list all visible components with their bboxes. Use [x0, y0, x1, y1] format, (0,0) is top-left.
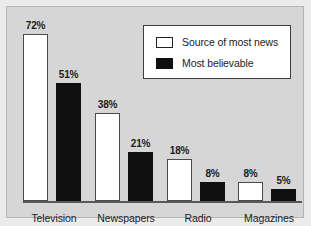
bar-value-label: 51% [59, 69, 78, 80]
legend-label: Most believable [182, 57, 253, 69]
bar-television-believable: 51% [56, 83, 81, 201]
bar-radio-source: 18% [167, 159, 192, 201]
bar-value-label: 21% [131, 138, 150, 149]
bar-television-source: 72% [23, 34, 48, 201]
bar-value-label: 72% [26, 20, 45, 31]
bar-newspapers-source: 38% [95, 113, 120, 201]
bar-magazines-source: 8% [238, 182, 263, 201]
chart-panel: 72% 51% 38% 21% 18% [6, 6, 304, 218]
bar-newspapers-believable: 21% [128, 152, 153, 201]
category-label-magazines: Magazines [238, 212, 300, 224]
legend-label: Source of most news [182, 36, 278, 48]
legend-item-source-of-most-news: Source of most news [156, 35, 278, 49]
bar-value-label: 38% [98, 99, 117, 110]
bar-magazines-believable: 5% [271, 189, 296, 201]
x-axis-line [23, 201, 302, 203]
legend-swatch-black-icon [156, 58, 173, 69]
bar-radio-believable: 8% [200, 182, 225, 201]
bar-value-label: 18% [170, 145, 189, 156]
legend-swatch-white-icon [156, 37, 173, 48]
bar-group-television: 72% 51% [23, 16, 85, 201]
category-label-radio: Radio [167, 212, 229, 224]
bar-value-label: 8% [205, 168, 219, 179]
legend-item-most-believable: Most believable [156, 56, 253, 70]
bar-value-label: 5% [276, 175, 290, 186]
category-label-television: Television [23, 212, 85, 224]
chart-screenshot: 72% 51% 38% 21% 18% [0, 0, 311, 226]
category-label-newspapers: Newspapers [95, 212, 157, 224]
chart-legend: Source of most news Most believable [143, 25, 291, 79]
bar-value-label: 8% [243, 168, 257, 179]
